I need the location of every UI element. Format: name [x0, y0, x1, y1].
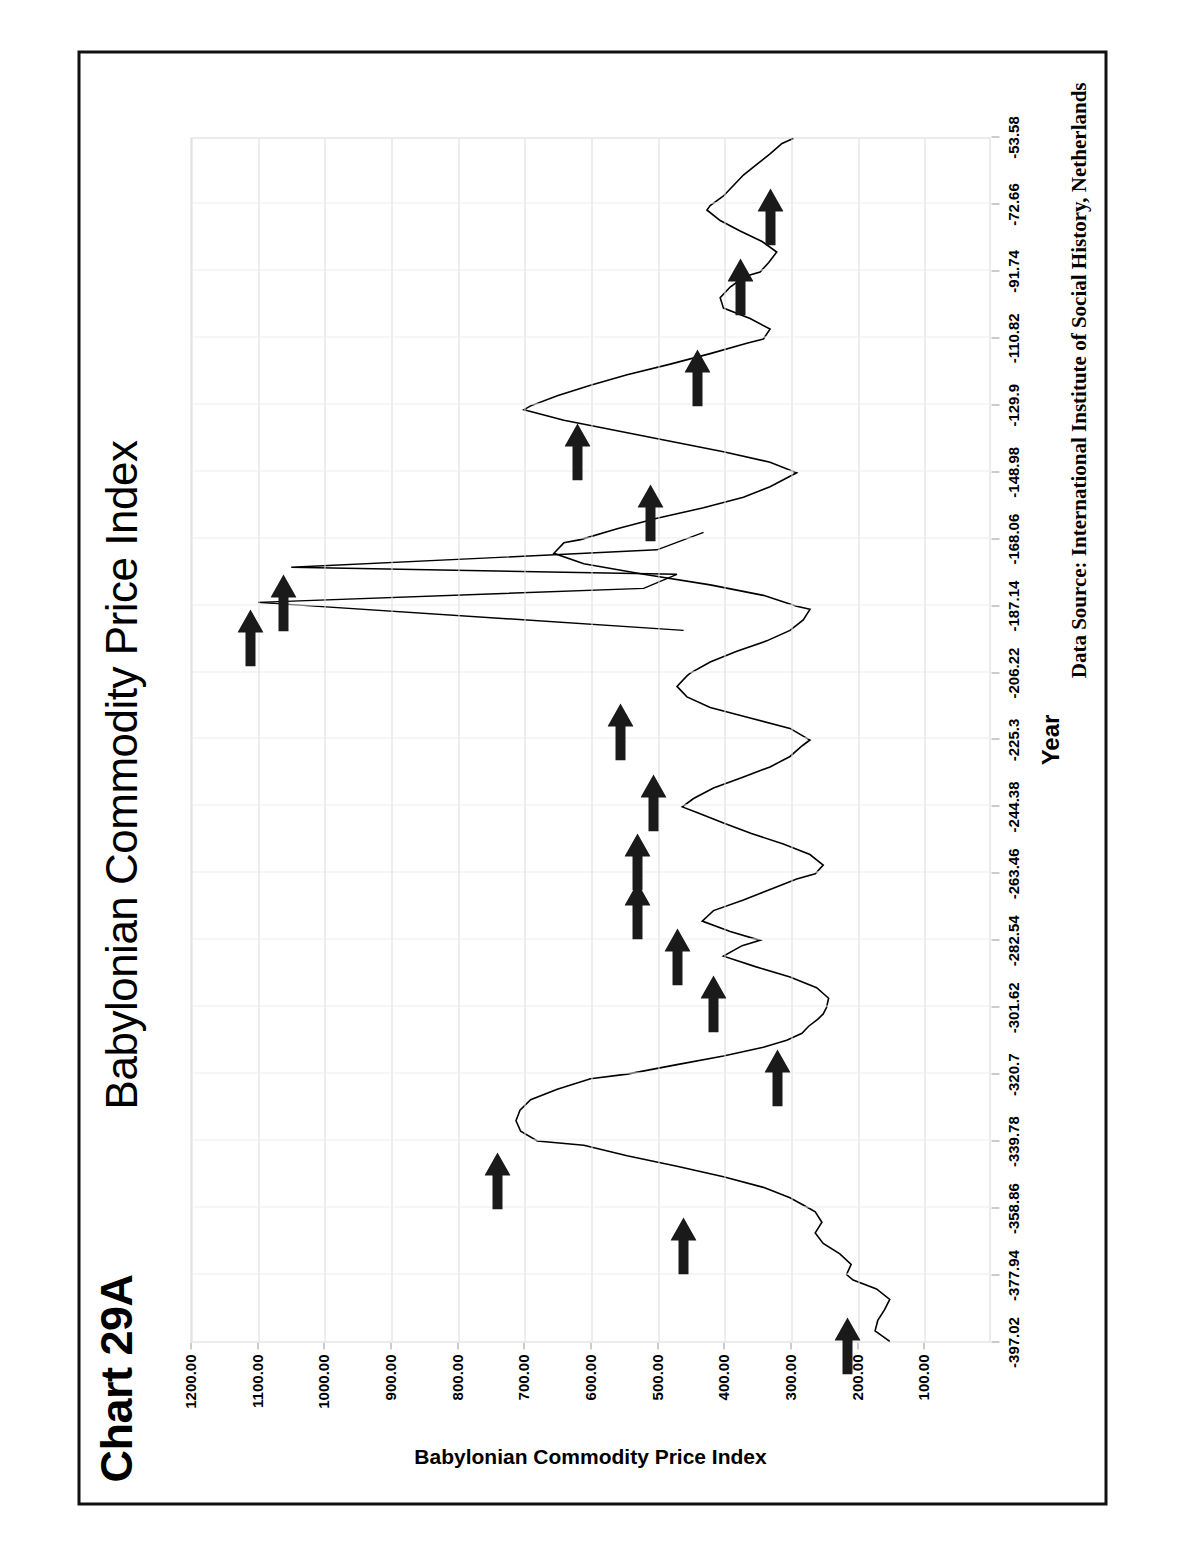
- annotation-arrow-icon: [671, 1216, 697, 1274]
- x-gridline: [192, 1206, 990, 1207]
- x-tick-label: -377.94: [1005, 1250, 1022, 1301]
- annotation-arrow-icon: [624, 832, 650, 890]
- y-tick-mark: [657, 1342, 658, 1349]
- y-tick-label: 700.00: [515, 1354, 532, 1400]
- y-tick-label: 500.00: [649, 1354, 666, 1400]
- x-gridline: [192, 537, 990, 538]
- annotation-arrow-icon: [641, 773, 667, 831]
- y-tick-mark: [257, 1342, 258, 1349]
- annotation-arrow-icon: [564, 422, 590, 480]
- annotation-arrow-icon: [664, 927, 690, 985]
- y-tick-label: 100.00: [915, 1354, 932, 1400]
- y-tick-label: 400.00: [715, 1354, 732, 1400]
- y-gridline: [858, 138, 859, 1341]
- annotation-arrow-icon: [728, 257, 754, 315]
- x-gridline: [192, 804, 990, 805]
- x-tick-mark: [992, 605, 1000, 606]
- rotated-chart-container: Chart 29A Babylonian Commodity Price Ind…: [78, 50, 1108, 1505]
- y-gridline: [458, 138, 459, 1341]
- x-tick-label: -72.66: [1005, 183, 1022, 226]
- x-gridline: [192, 671, 990, 672]
- x-tick-label: -91.74: [1005, 250, 1022, 293]
- x-tick-label: -168.06: [1005, 513, 1022, 564]
- y-tick-mark: [591, 1342, 592, 1349]
- x-axis-title: Year: [1037, 137, 1065, 1342]
- x-tick-label: -206.22: [1005, 647, 1022, 698]
- y-gridline: [525, 138, 526, 1341]
- x-tick-label: -320.7: [1005, 1053, 1022, 1096]
- y-gridline: [192, 138, 193, 1341]
- annotation-arrow-icon: [638, 483, 664, 541]
- y-gridline: [392, 138, 393, 1341]
- y-tick-label: 1200.00: [182, 1354, 199, 1408]
- plot-area: [191, 137, 991, 1342]
- y-gridline: [258, 138, 259, 1341]
- annotation-arrow-icon: [764, 1048, 790, 1106]
- x-tick-mark: [992, 939, 1000, 940]
- x-tick-mark: [992, 1140, 1000, 1141]
- annotation-arrow-icon: [701, 974, 727, 1032]
- y-gridline: [592, 138, 593, 1341]
- x-gridline: [192, 738, 990, 739]
- x-tick-mark: [992, 872, 1000, 873]
- x-tick-mark: [992, 1207, 1000, 1208]
- x-gridline: [192, 403, 990, 404]
- y-axis-title: Babylonian Commodity Price Index: [191, 1444, 991, 1468]
- y-tick-mark: [524, 1342, 525, 1349]
- x-tick-mark: [992, 203, 1000, 204]
- x-gridline: [192, 336, 990, 337]
- x-gridline: [192, 871, 990, 872]
- x-tick-label: -225.3: [1005, 718, 1022, 761]
- x-tick-mark: [992, 1006, 1000, 1007]
- x-tick-mark: [992, 739, 1000, 740]
- x-tick-label: -110.82: [1005, 313, 1022, 363]
- annotation-arrow-icon: [484, 1151, 510, 1209]
- x-tick-mark: [992, 672, 1000, 673]
- y-gridline: [325, 138, 326, 1341]
- data-source-note: Data Source: International Institute of …: [1067, 82, 1092, 1502]
- price-index-line-series: [192, 138, 990, 1341]
- x-tick-label: -244.38: [1005, 781, 1022, 832]
- x-tick-label: -53.58: [1005, 116, 1022, 159]
- x-tick-label: -339.78: [1005, 1116, 1022, 1167]
- y-gridline: [925, 138, 926, 1341]
- annotation-arrow-icon: [271, 573, 297, 631]
- x-gridline: [192, 604, 990, 605]
- x-tick-label: -148.98: [1005, 446, 1022, 497]
- x-tick-mark: [992, 337, 1000, 338]
- x-gridline: [192, 1273, 990, 1274]
- annotation-arrow-icon: [238, 608, 264, 666]
- x-gridline: [192, 1072, 990, 1073]
- chart-frame: Chart 29A Babylonian Commodity Price Ind…: [78, 50, 1108, 1505]
- y-tick-label: 800.00: [449, 1354, 466, 1400]
- annotation-arrow-icon: [834, 1316, 860, 1374]
- x-tick-label: -282.54: [1005, 915, 1022, 966]
- x-tick-mark: [992, 471, 1000, 472]
- annotation-arrow-icon: [684, 348, 710, 406]
- x-tick-mark: [992, 136, 1000, 137]
- y-tick-mark: [324, 1342, 325, 1349]
- chart-page: Chart 29A Babylonian Commodity Price Ind…: [0, 0, 1185, 1555]
- y-tick-mark: [191, 1342, 192, 1349]
- y-tick-mark: [724, 1342, 725, 1349]
- x-tick-mark: [992, 270, 1000, 271]
- y-tick-mark: [924, 1342, 925, 1349]
- y-tick-label: 900.00: [382, 1354, 399, 1400]
- annotation-arrow-icon: [758, 187, 784, 245]
- y-tick-label: 1100.00: [249, 1354, 266, 1407]
- x-tick-mark: [992, 805, 1000, 806]
- x-tick-label: -301.62: [1005, 982, 1022, 1033]
- x-tick-mark: [992, 1341, 1000, 1342]
- y-tick-label: 600.00: [582, 1354, 599, 1400]
- y-tick-mark: [457, 1342, 458, 1349]
- x-gridline: [192, 269, 990, 270]
- x-tick-mark: [992, 1073, 1000, 1074]
- y-tick-label: 300.00: [782, 1354, 799, 1400]
- x-tick-label: -263.46: [1005, 848, 1022, 899]
- x-tick-label: -187.14: [1005, 580, 1022, 631]
- y-gridline: [725, 138, 726, 1341]
- x-tick-mark: [992, 538, 1000, 539]
- x-gridline: [192, 470, 990, 471]
- y-tick-mark: [391, 1342, 392, 1349]
- x-gridline: [192, 202, 990, 203]
